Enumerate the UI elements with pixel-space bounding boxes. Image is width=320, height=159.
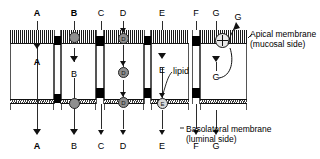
tight-junction-c-basal xyxy=(54,94,61,103)
carrier-d-middle: D xyxy=(118,67,129,78)
tight-junction-3-apical xyxy=(144,36,151,45)
arrowhead-b-apical xyxy=(70,56,78,62)
basolateral-membrane-line1: Basolateral membrane xyxy=(186,124,272,134)
bottom-label-a: A xyxy=(32,142,42,151)
bottom-label-e: E xyxy=(157,142,167,151)
top-label-b: B xyxy=(69,9,79,18)
carrier-e-basal-label: E xyxy=(158,101,167,107)
stem-g-intracellular xyxy=(216,62,217,71)
apical-membrane-line1: Apical membrane xyxy=(250,29,316,39)
tight-junction-3-basal xyxy=(144,88,151,98)
tight-junction-c-apical xyxy=(54,36,61,45)
arrowhead-g-apical xyxy=(212,56,220,62)
stem-b-exit xyxy=(74,108,75,129)
bottom-label-d: D xyxy=(118,142,128,151)
tight-junction-f-basal xyxy=(192,88,200,98)
carrier-e-basal: E xyxy=(157,98,168,109)
carrier-b-basal xyxy=(69,98,80,109)
tight-junction-c2-basal xyxy=(96,88,104,98)
carrier-d-basal: D xyxy=(118,97,129,108)
arrowhead-e-apical xyxy=(158,53,166,59)
carrier-b-apical xyxy=(69,32,80,43)
apical-membrane-line2: (mucosal side) xyxy=(250,39,316,49)
basolateral-membrane-annotation: Basolateral membrane (luminal side) xyxy=(186,124,272,144)
bottom-label-c: C xyxy=(96,142,106,151)
carrier-d-middle-label: D xyxy=(119,70,128,76)
arrowhead-a-out xyxy=(33,129,41,135)
arrowhead-c-out xyxy=(98,130,104,135)
mid-label-b: B xyxy=(69,70,79,79)
top-label-c: C xyxy=(96,9,106,18)
carrier-d-basal-label: D xyxy=(119,100,128,106)
bottom-label-b: B xyxy=(69,142,79,151)
efflux-transporter-g-icon xyxy=(215,33,230,48)
stem-d-exit xyxy=(123,110,124,129)
basolateral-membrane-1 xyxy=(10,99,54,104)
top-label-d: D xyxy=(118,9,128,18)
basolateral-membrane-line2: (luminal side) xyxy=(186,134,272,144)
arrowhead-d-out xyxy=(120,130,126,135)
arrowhead-d-mid xyxy=(120,61,126,66)
apical-membrane-annotation: Apical membrane (mucosal side) xyxy=(250,29,316,49)
apical-brush-border-1 xyxy=(10,30,54,44)
mid-label-a: A xyxy=(32,58,42,67)
arrowhead-e-out xyxy=(159,130,165,135)
top-label-a: A xyxy=(32,9,42,18)
mid-label-e: E xyxy=(157,66,167,75)
apical-brush-border-4 xyxy=(151,30,189,44)
carrier-d-apical-label: D xyxy=(119,36,128,42)
top-label-g: G xyxy=(211,9,221,18)
mid-label-g: G xyxy=(211,73,221,82)
top-label-e: E xyxy=(157,9,167,18)
tight-junction-f-apical xyxy=(192,36,200,46)
lipid-annotation-label: lipid xyxy=(173,67,197,76)
arrowhead-b-out xyxy=(70,129,78,135)
top-label-f: F xyxy=(191,9,201,18)
top-label-g-efflux: G xyxy=(233,13,243,22)
tight-junction-c2-apical xyxy=(96,36,104,46)
arrowhead-a-apical xyxy=(33,43,41,49)
transport-diagram: A B C D E F G G xyxy=(0,0,320,159)
carrier-d-apical: D xyxy=(118,33,129,44)
basolateral-membrane-5 xyxy=(200,99,247,104)
stem-e-exit xyxy=(162,110,163,129)
